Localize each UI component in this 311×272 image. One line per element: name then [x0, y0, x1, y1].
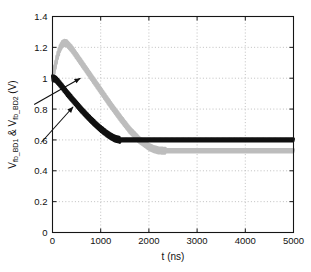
y-tick-label: 1	[42, 73, 47, 84]
chart-figure: 010002000300040005000 00.20.40.60.811.21…	[0, 0, 311, 272]
y-tick-label: 0	[42, 227, 47, 238]
x-tick-label: 0	[50, 235, 55, 246]
y-tick-label: 1.2	[34, 42, 47, 53]
y-tick-label: 0.8	[34, 104, 47, 115]
chart-svg: 010002000300040005000 00.20.40.60.811.21…	[0, 0, 311, 272]
x-tick-label: 4000	[235, 235, 256, 246]
x-tick-label: 1000	[90, 235, 111, 246]
x-tick-label: 2000	[138, 235, 159, 246]
x-axis-title: t (ns)	[162, 251, 185, 262]
y-tick-label: 0.6	[34, 135, 47, 146]
x-tick-label: 3000	[187, 235, 208, 246]
x-tick-label: 5000	[283, 235, 304, 246]
y-tick-label: 1.4	[34, 11, 47, 22]
y-tick-label: 0.2	[34, 196, 47, 207]
y-tick-label: 0.4	[34, 165, 47, 176]
